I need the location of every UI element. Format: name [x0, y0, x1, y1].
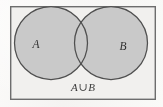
- set-a-label: A: [31, 38, 40, 50]
- caption-union-operator: ∪: [78, 81, 87, 93]
- caption-set-a: A: [70, 81, 78, 93]
- venn-diagram-figure: A B A∪B: [0, 0, 163, 107]
- set-b-label: B: [119, 40, 126, 52]
- venn-diagram-canvas: A B A∪B: [0, 0, 163, 107]
- union-caption: A∪B: [70, 81, 95, 93]
- caption-set-b: B: [88, 81, 95, 93]
